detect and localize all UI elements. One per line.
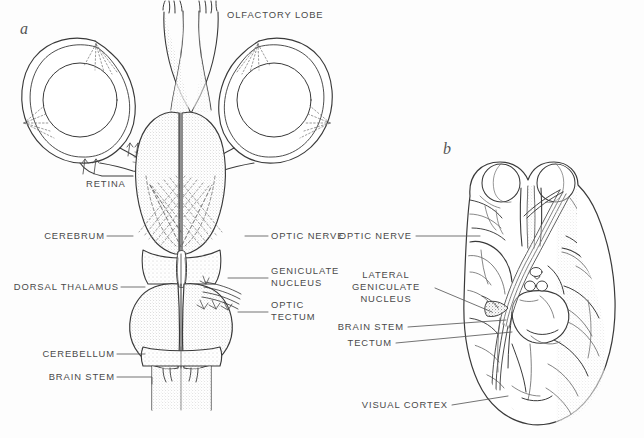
label-lateral-geniculate-line2: GENICULATE	[340, 281, 432, 293]
label-retina: RETINA	[86, 178, 126, 190]
dorsal-thalamus	[142, 250, 221, 288]
panel-letter-a: a	[20, 20, 28, 38]
brain-stem-a	[152, 366, 211, 410]
label-geniculate-nucleus-line2: NUCLEUS	[271, 277, 322, 289]
label-optic-nerve-b: OPTIC NERVE	[330, 230, 412, 242]
label-cerebrum: CEREBRUM	[0, 230, 105, 242]
label-dorsal-thalamus: DORSAL THALAMUS	[0, 281, 119, 293]
label-cerebellum: CEREBELLUM	[0, 348, 115, 360]
label-visual-cortex: VISUAL CORTEX	[330, 399, 448, 411]
olfactory-lobes	[163, 1, 218, 115]
left-eye	[22, 38, 152, 176]
figure-root: a b OLFACTORY LOBE RETINA CEREBRUM DORSA…	[0, 0, 644, 438]
label-brain-stem-a: BRAIN STEM	[0, 371, 115, 383]
label-optic-tectum-line2: TECTUM	[271, 311, 315, 323]
label-optic-tectum-line1: OPTIC	[271, 299, 304, 311]
label-geniculate-nucleus-line1: GENICULATE	[271, 265, 339, 277]
label-brain-stem-b: BRAIN STEM	[320, 321, 404, 333]
label-lateral-geniculate-line3: NUCLEUS	[340, 293, 432, 305]
label-olfactory-lobe: OLFACTORY LOBE	[227, 9, 324, 21]
panel-b-drawing	[464, 162, 615, 425]
label-tectum: TECTUM	[320, 337, 392, 349]
cerebrum	[136, 112, 226, 254]
panel-letter-b: b	[443, 140, 451, 158]
label-lateral-geniculate-line1: LATERAL	[340, 269, 432, 281]
